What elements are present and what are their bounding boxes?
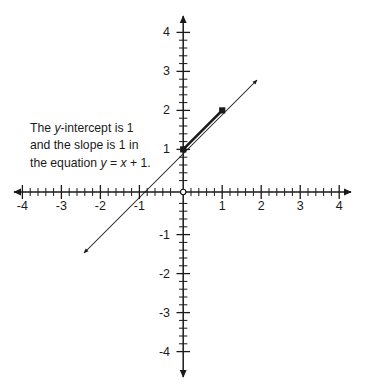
annotation-line-2: and the slope is 1 in	[30, 137, 158, 154]
annotation-text: The y-intercept is 1 and the slope is 1 …	[30, 120, 158, 172]
point-slope	[219, 107, 225, 113]
annotation-line-1-b: -intercept is 1	[60, 121, 133, 135]
y-axis	[177, 16, 191, 377]
annotation-line-1: The y-intercept is 1	[30, 120, 158, 137]
x-tick-label--4: -4	[12, 200, 32, 213]
y-tick-label--3: -3	[146, 307, 170, 320]
y-tick-label-4: 4	[150, 26, 170, 39]
y-tick-label--1: -1	[146, 229, 170, 242]
annotation-eq-sign: =	[107, 156, 121, 170]
y-tick-label--2: -2	[146, 268, 170, 281]
point-y-intercept	[180, 146, 186, 152]
x-tick-label--3: -3	[51, 200, 71, 213]
y-tick-label-3: 3	[150, 65, 170, 78]
annotation-line-1-a: The	[30, 121, 54, 135]
x-tick-label--1: -1	[129, 200, 149, 213]
coordinate-plane	[0, 0, 365, 390]
graph-figure: -4 -3 -2 -1 1 2 3 4 4 3 2 1 -1 -2 -3 -4 …	[0, 0, 365, 390]
y-tick-label-2: 2	[150, 104, 170, 117]
x-tick-label-2: 2	[251, 200, 271, 213]
x-tick-label-3: 3	[290, 200, 310, 213]
x-tick-label-4: 4	[329, 200, 349, 213]
annotation-eq-end: + 1.	[127, 156, 151, 170]
annotation-line-3: the equation y = x + 1.	[30, 155, 158, 172]
x-tick-label--2: -2	[90, 200, 110, 213]
annotation-line-3-a: the equation	[30, 156, 100, 170]
y-tick-label--4: -4	[146, 346, 170, 359]
x-tick-label-1: 1	[212, 200, 232, 213]
origin-marker	[181, 189, 186, 194]
highlighted-segment	[183, 110, 222, 149]
